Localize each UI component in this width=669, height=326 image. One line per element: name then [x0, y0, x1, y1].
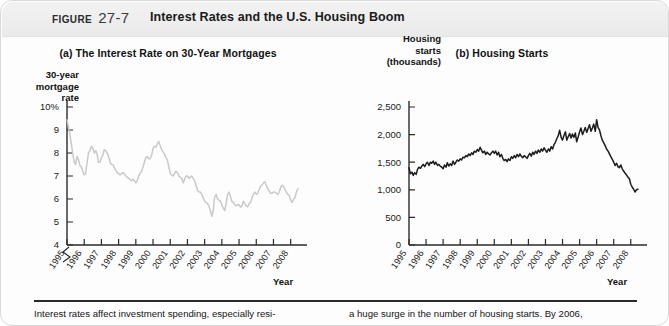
- svg-text:2004: 2004: [542, 248, 562, 270]
- svg-text:1998: 1998: [99, 248, 119, 270]
- svg-text:2000: 2000: [133, 248, 153, 270]
- svg-text:2,000: 2,000: [377, 129, 401, 140]
- svg-text:1995: 1995: [389, 248, 409, 270]
- svg-text:1,500: 1,500: [377, 157, 401, 168]
- panel-b-plot: 05001,0001,5002,0002,5001995199619971998…: [335, 37, 669, 289]
- svg-text:1996: 1996: [406, 248, 426, 270]
- svg-text:2002: 2002: [508, 248, 528, 270]
- svg-text:8: 8: [54, 147, 59, 158]
- figure-word: Figure: [52, 14, 92, 25]
- caption-divider: [34, 300, 637, 302]
- caption-left-column: Interest rates affect investment spendin…: [34, 308, 326, 320]
- figure-header-bar: Figure 27-7 Interest Rates and the U.S. …: [2, 2, 669, 37]
- panel-b-housing-starts: (b) Housing Starts 05001,0001,5002,0002,…: [335, 37, 669, 289]
- svg-text:1997: 1997: [81, 248, 101, 270]
- svg-text:1997: 1997: [423, 248, 443, 270]
- figure-card: Figure 27-7 Interest Rates and the U.S. …: [0, 0, 669, 326]
- svg-text:1999: 1999: [457, 248, 477, 270]
- svg-text:2008: 2008: [611, 248, 631, 270]
- svg-text:2000: 2000: [474, 248, 494, 270]
- svg-text:2002: 2002: [167, 248, 187, 270]
- svg-text:2007: 2007: [594, 248, 614, 270]
- svg-text:6: 6: [54, 193, 59, 204]
- svg-text:2007: 2007: [253, 248, 273, 270]
- figure-title: Interest Rates and the U.S. Housing Boom: [150, 10, 405, 24]
- panel-b-y-axis-title-line-3: (thousands): [341, 56, 441, 68]
- svg-text:1998: 1998: [440, 248, 460, 270]
- panel-b-x-axis-title: Year: [607, 276, 627, 287]
- svg-text:1999: 1999: [116, 248, 136, 270]
- panel-b-y-axis-title-line-2: starts: [341, 45, 441, 57]
- panel-a-interest-rate: (a) The Interest Rate on 30-Year Mortgag…: [1, 37, 335, 289]
- svg-text:2004: 2004: [202, 248, 222, 270]
- svg-text:5: 5: [54, 216, 59, 227]
- svg-text:2001: 2001: [150, 248, 170, 270]
- svg-text:2005: 2005: [219, 248, 239, 270]
- svg-text:2003: 2003: [525, 248, 545, 270]
- svg-text:2001: 2001: [491, 248, 511, 270]
- svg-text:1,000: 1,000: [377, 184, 401, 195]
- svg-text:2005: 2005: [560, 248, 580, 270]
- svg-text:500: 500: [385, 212, 401, 223]
- figure-label: Figure 27-7: [52, 9, 129, 29]
- panel-b-y-axis-title: Housing starts (thousands): [341, 33, 441, 68]
- svg-text:10%: 10%: [40, 101, 60, 112]
- svg-text:2003: 2003: [185, 248, 205, 270]
- svg-text:2006: 2006: [577, 248, 597, 270]
- svg-text:9: 9: [54, 124, 59, 135]
- svg-text:2,500: 2,500: [377, 101, 401, 112]
- panel-b-y-axis-title-line-1: Housing: [341, 33, 441, 45]
- figure-number: 27-7: [98, 9, 129, 26]
- svg-text:1996: 1996: [64, 248, 84, 270]
- caption-right-column: a huge surge in the number of housing st…: [349, 308, 641, 320]
- panel-a-plot: 45678910%1995199619971998199920002001200…: [1, 37, 335, 289]
- svg-text:2008: 2008: [271, 248, 291, 270]
- svg-text:2006: 2006: [236, 248, 256, 270]
- svg-text:7: 7: [54, 170, 59, 181]
